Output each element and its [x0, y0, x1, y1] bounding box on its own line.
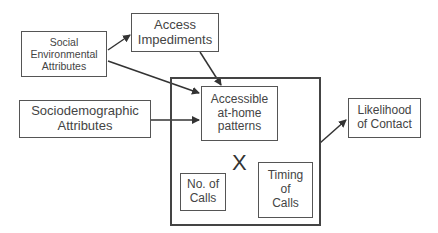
timing-of-calls-node: Timing of Calls: [258, 162, 313, 218]
sociodemographic-attributes-node: Sociodemographic Attributes: [19, 100, 151, 138]
accessible-at-home-patterns-node: Accessible at-home patterns: [201, 86, 278, 141]
edge-social-to-access: [108, 35, 130, 50]
interaction-symbol: X: [232, 150, 247, 176]
social-environmental-attributes-node: Social Environmental Attributes: [21, 31, 107, 77]
node-label: Accessible at-home patterns: [211, 93, 268, 134]
edge-big-to-likelihood: [320, 120, 346, 143]
node-label: Timing of Calls: [268, 169, 304, 210]
node-label: No. of Calls: [187, 178, 219, 206]
likelihood-of-contact-node: Likelihood of Contact: [348, 98, 421, 138]
node-label: Social Environmental Attributes: [30, 36, 97, 72]
node-label: Access Impediments: [138, 18, 212, 48]
access-impediments-node: Access Impediments: [131, 13, 219, 52]
node-label: Likelihood of Contact: [357, 104, 412, 132]
node-label: Sociodemographic Attributes: [31, 104, 139, 134]
no-of-calls-node: No. of Calls: [180, 173, 226, 211]
